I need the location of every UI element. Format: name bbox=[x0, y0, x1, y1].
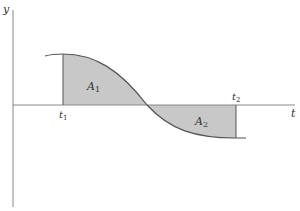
y-axis-label: y bbox=[2, 3, 10, 16]
region-a1 bbox=[63, 54, 147, 105]
t-axis-label: t bbox=[291, 107, 296, 120]
t1-label: t1 bbox=[59, 109, 68, 122]
t2-label: t2 bbox=[232, 91, 241, 104]
area-diagram: y t t1 t2 A1 A2 bbox=[0, 0, 300, 211]
